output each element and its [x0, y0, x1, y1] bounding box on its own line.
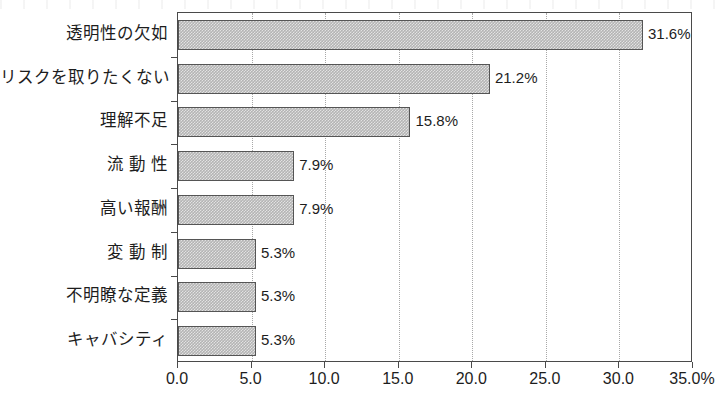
x-axis-tick — [545, 362, 546, 368]
value-label: 31.6% — [648, 26, 691, 41]
y-axis-tick — [171, 188, 178, 189]
gridline — [619, 13, 620, 361]
bar — [178, 282, 256, 312]
bar — [178, 239, 256, 269]
y-axis-tick — [171, 276, 178, 277]
plot-area — [177, 12, 692, 362]
category-label: 透明性の欠如 — [0, 25, 168, 42]
category-label: キャバシティ — [0, 331, 168, 348]
y-axis-tick — [171, 232, 178, 233]
x-axis-tick-label: 10.0 — [309, 371, 340, 387]
x-axis-tick — [177, 362, 178, 368]
bar-chart: 透明性の欠如リスクを取りたくない理解不足流動性高い報酬変動制不明瞭な定義キャバシ… — [0, 0, 724, 402]
bar — [178, 64, 490, 94]
x-axis-tick-label: 35.0% — [669, 371, 714, 387]
bar — [178, 326, 256, 356]
scan-artifact — [0, 0, 724, 9]
value-label: 5.3% — [261, 288, 295, 303]
value-label: 5.3% — [261, 332, 295, 347]
category-label: 不明瞭な定義 — [0, 287, 168, 304]
bar — [178, 195, 294, 225]
y-axis-tick — [171, 144, 178, 145]
value-label: 5.3% — [261, 245, 295, 260]
category-label: 変動制 — [0, 244, 168, 261]
category-label: 高い報酬 — [0, 200, 168, 217]
category-label: リスクを取りたくない — [0, 69, 168, 86]
x-axis-tick — [251, 362, 252, 368]
y-axis-tick — [171, 319, 178, 320]
value-label: 7.9% — [299, 157, 333, 172]
bar — [178, 107, 410, 137]
value-label: 7.9% — [299, 201, 333, 216]
x-axis-tick-label: 25.0 — [529, 371, 560, 387]
x-axis-tick — [618, 362, 619, 368]
bar — [178, 20, 643, 50]
x-axis-tick-label: 15.0 — [382, 371, 413, 387]
category-label: 理解不足 — [0, 112, 168, 129]
category-label: 流動性 — [0, 156, 168, 173]
x-axis-tick-label: 5.0 — [239, 371, 261, 387]
x-axis-tick-label: 30.0 — [603, 371, 634, 387]
x-axis-tick — [692, 362, 693, 368]
value-label: 21.2% — [495, 70, 538, 85]
x-axis-tick-label: 0.0 — [166, 371, 188, 387]
x-axis-tick-label: 20.0 — [456, 371, 487, 387]
x-axis-tick — [324, 362, 325, 368]
y-axis-tick — [171, 101, 178, 102]
x-axis-tick — [471, 362, 472, 368]
bar — [178, 151, 294, 181]
value-label: 15.8% — [415, 113, 458, 128]
gridline — [546, 13, 547, 361]
y-axis-tick — [171, 57, 178, 58]
x-axis-tick — [398, 362, 399, 368]
